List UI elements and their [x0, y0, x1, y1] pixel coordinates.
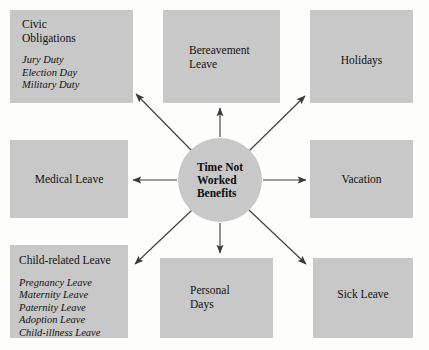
node-title-line: Holidays [310, 54, 413, 68]
node-item: Jury Duty [22, 54, 133, 67]
node-title-line: Obligations [22, 32, 133, 46]
node-title-civic-obligations: CivicObligations [22, 18, 133, 45]
node-item: Pregnancy Leave [19, 277, 128, 290]
hub-label: Time Not Worked Benefits [197, 161, 243, 200]
node-box-vacation[interactable]: Vacation [310, 140, 413, 218]
node-title-line: Civic [22, 18, 133, 32]
node-item: Election Day [22, 67, 133, 80]
node-title-sick-leave: Sick Leave [313, 288, 413, 302]
node-title-child-related-leave: Child-related Leave [19, 254, 128, 268]
arrow-to-sick-leave [249, 210, 306, 264]
node-item: Adoption Leave [19, 314, 128, 327]
node-title-personal-days: PersonalDays [190, 284, 273, 311]
node-title-line: Personal [190, 284, 273, 298]
node-item-list-child-related-leave: Pregnancy LeaveMaternity LeavePaternity … [19, 277, 128, 340]
node-item: Military Duty [22, 79, 133, 92]
node-title-line: Vacation [310, 173, 413, 187]
node-text-block: BereavementLeave [189, 44, 280, 71]
node-text-block: Holidays [310, 54, 413, 68]
node-box-child-related-leave[interactable]: Child-related LeavePregnancy LeaveMatern… [10, 245, 128, 338]
node-title-line: Medical Leave [10, 173, 128, 187]
node-box-personal-days[interactable]: PersonalDays [160, 258, 273, 338]
node-title-vacation: Vacation [310, 173, 413, 187]
node-box-civic-obligations[interactable]: CivicObligationsJury DutyElection DayMil… [10, 10, 133, 103]
arrow-to-holidays [249, 96, 305, 151]
diagram-canvas: CivicObligationsJury DutyElection DayMil… [0, 0, 429, 350]
node-title-bereavement-leave: BereavementLeave [189, 44, 280, 71]
arrow-to-child-related-leave [135, 210, 192, 264]
node-text-block: Medical Leave [10, 173, 128, 187]
node-title-line: Days [190, 298, 273, 312]
node-title-holidays: Holidays [310, 54, 413, 68]
node-box-bereavement-leave[interactable]: BereavementLeave [163, 10, 280, 103]
node-item: Maternity Leave [19, 289, 128, 302]
node-text-block: PersonalDays [190, 284, 273, 311]
node-text-block: CivicObligationsJury DutyElection DayMil… [22, 18, 133, 92]
node-box-medical-leave[interactable]: Medical Leave [10, 140, 128, 218]
node-title-line: Leave [189, 58, 280, 72]
node-item: Paternity Leave [19, 302, 128, 315]
node-text-block: Sick Leave [313, 288, 413, 302]
hub-node-time-not-worked-benefits[interactable]: Time Not Worked Benefits [178, 138, 262, 222]
node-title-line: Sick Leave [313, 288, 413, 302]
node-item: Child-illness Leave [19, 327, 128, 340]
node-text-block: Vacation [310, 173, 413, 187]
node-title-medical-leave: Medical Leave [10, 173, 128, 187]
node-text-block: Child-related LeavePregnancy LeaveMatern… [19, 254, 128, 339]
node-item-list-civic-obligations: Jury DutyElection DayMilitary Duty [22, 54, 133, 92]
node-box-holidays[interactable]: Holidays [310, 10, 413, 103]
node-title-line: Bereavement [189, 44, 280, 58]
node-title-line: Child-related Leave [19, 254, 128, 268]
node-box-sick-leave[interactable]: Sick Leave [313, 258, 413, 338]
